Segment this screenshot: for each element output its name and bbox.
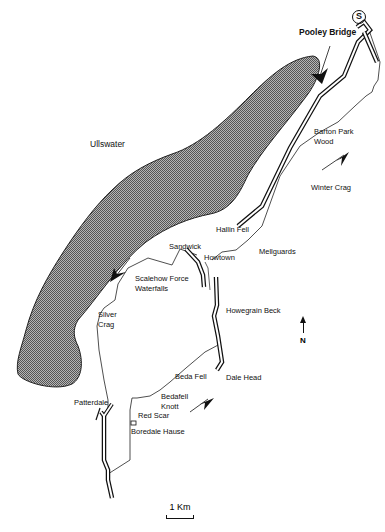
label-ullswater: Ullswater: [90, 139, 125, 149]
direction-arrow-northeast-winter-crag: [322, 152, 349, 170]
start-marker-icon: S: [352, 10, 366, 24]
label-mellguards: Mellguards: [259, 247, 296, 257]
label-sandwick: Sandwick: [169, 242, 201, 252]
label-patterdale: Patterdale: [74, 398, 108, 408]
label-barton-park-wood: Wood: [314, 137, 333, 147]
label-howegrain-beck: Howegrain Beck: [226, 306, 281, 316]
boredale-hause-marker: [131, 421, 136, 425]
label-boredale-hause: Boredale Hause: [131, 427, 185, 437]
label-silver-crag: Crag: [98, 320, 114, 330]
road-patterdale: [96, 404, 112, 498]
lake-ullswater: [17, 56, 319, 387]
label-hallin-fell: Hallin Fell: [216, 225, 249, 235]
label-beda-fell: Beda Fell: [175, 372, 207, 382]
label-scalehow-force: Scalehow Force: [135, 274, 189, 284]
direction-arrow-northeast-bedafell: [190, 398, 214, 412]
label-barton-park: Barton Park: [314, 127, 354, 137]
label-winter-crag: Winter Crag: [311, 183, 351, 193]
label-scalehow-waterfalls: Waterfalls: [135, 284, 168, 294]
north-label: N: [297, 336, 309, 345]
north-arrow-icon: [300, 316, 306, 323]
label-howtown: Howtown: [204, 253, 235, 263]
road-dale-head: [214, 277, 222, 370]
north-arrow-shaft: [303, 323, 304, 333]
route-map: [0, 0, 385, 532]
scale-label: 1 Km: [160, 502, 200, 512]
label-dale-head: Dale Head: [226, 373, 261, 383]
north-indicator: N: [297, 316, 309, 345]
label-silver: Silver: [98, 310, 117, 320]
label-red-scar: Red Scar: [138, 411, 169, 421]
label-bedafell: Bedafell: [161, 392, 188, 402]
scale-bar: 1 Km: [160, 502, 200, 519]
scale-bar-icon: [166, 515, 194, 519]
label-pooley-bridge: Pooley Bridge: [299, 27, 356, 37]
